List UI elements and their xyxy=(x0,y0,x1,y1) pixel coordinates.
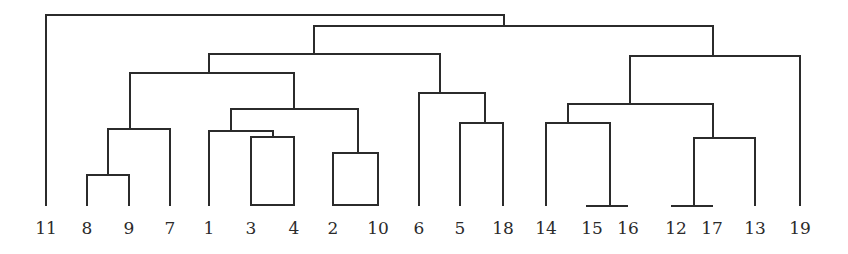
dendrogram-branches xyxy=(46,15,800,206)
leaf-label: 19 xyxy=(789,218,811,238)
leaf-label: 15 xyxy=(581,218,603,238)
leaf-label: 3 xyxy=(246,218,257,238)
leaf-label: 9 xyxy=(124,218,135,238)
leaf-label: 10 xyxy=(367,218,389,238)
leaf-label: 7 xyxy=(165,218,176,238)
leaf-label: 6 xyxy=(414,218,425,238)
leaf-label: 14 xyxy=(535,218,557,238)
leaf-label: 17 xyxy=(701,218,723,238)
leaf-label: 8 xyxy=(82,218,93,238)
leaf-label: 16 xyxy=(617,218,639,238)
leaf-label: 11 xyxy=(35,218,57,238)
leaf-labels: 11897134210651814151612171319 xyxy=(35,218,811,238)
leaf-label: 4 xyxy=(289,218,300,238)
leaf-label: 2 xyxy=(328,218,339,238)
dendrogram: 11897134210651814151612171319 xyxy=(0,0,848,254)
leaf-label: 5 xyxy=(455,218,466,238)
leaf-label: 13 xyxy=(744,218,766,238)
leaf-label: 1 xyxy=(204,218,215,238)
leaf-label: 12 xyxy=(665,218,687,238)
leaf-label: 18 xyxy=(492,218,514,238)
